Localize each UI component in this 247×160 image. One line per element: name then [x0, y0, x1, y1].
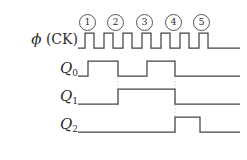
- waveform-q2: [78, 117, 240, 132]
- waveform-canvas: [0, 0, 247, 160]
- timing-diagram-figure: 1 2 3 4 5 ϕ (CK) Q0 Q1 Q2: [0, 0, 247, 160]
- waveform-clock: [78, 33, 240, 48]
- waveform-q1: [78, 89, 240, 104]
- waveform-q0: [78, 61, 240, 76]
